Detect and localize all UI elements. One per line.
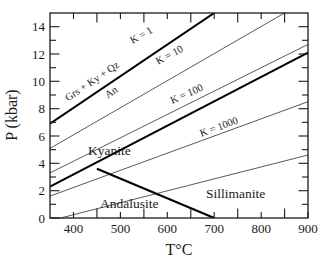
phase-diagram-plot: 400 500 600 700 800 900 0 2 4 6 8 10 12 … <box>0 0 335 275</box>
cropped-caption <box>0 263 335 275</box>
x-tick-label: 600 <box>158 221 178 236</box>
y-tick-label: 0 <box>39 211 46 226</box>
y-tick-label: 14 <box>32 19 46 34</box>
phase-diagram-figure: 400 500 600 700 800 900 0 2 4 6 8 10 12 … <box>0 0 335 275</box>
y-tick-label: 8 <box>39 101 46 116</box>
field-label-kyanite: Kyanite <box>88 143 131 158</box>
y-tick-label: 2 <box>39 183 46 198</box>
field-label-sillimanite: Sillimanite <box>206 186 265 201</box>
y-axis-title: P (kbar) <box>3 89 21 140</box>
y-tick-label: 6 <box>39 129 46 144</box>
x-tick-label: 500 <box>111 221 131 236</box>
x-axis-title: T°C <box>166 241 193 258</box>
field-label-andalusite: Andalusite <box>100 196 159 211</box>
y-tick-label: 4 <box>39 156 46 171</box>
x-tick-label: 900 <box>298 221 318 236</box>
y-tick-label: 10 <box>32 74 45 89</box>
x-tick-label: 400 <box>64 221 84 236</box>
x-tick-label: 700 <box>204 221 224 236</box>
x-tick-label: 800 <box>251 221 271 236</box>
y-tick-label: 12 <box>32 47 45 62</box>
